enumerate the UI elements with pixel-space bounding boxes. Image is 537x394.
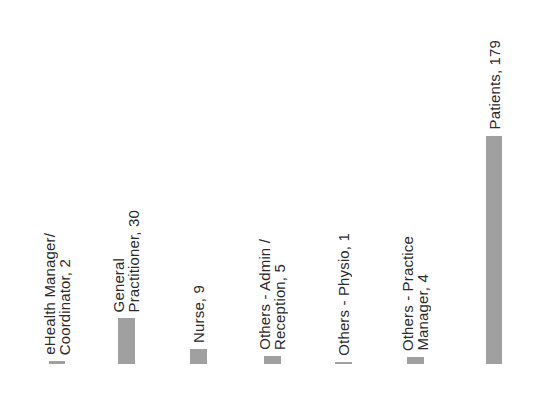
bar-label-others-practice-manager: Others - Practice Manager, 4: [400, 236, 430, 351]
bar-label-line: Reception, 5: [272, 264, 287, 350]
bar-label-others-admin-reception: Others - Admin / Reception, 5: [257, 239, 287, 350]
plot-area: eHealth Manager/ Coordinator, 2 General …: [0, 0, 537, 394]
bar-label-line: Others - Physio, 1: [336, 233, 351, 356]
bar-label-line: Nurse, 9: [191, 285, 206, 343]
bar-label-line: Practitioner, 30: [126, 210, 141, 312]
bar-label-line: General: [111, 258, 126, 312]
bar-label-line: Manager, 4: [415, 274, 430, 351]
bar-others-practice-manager[interactable]: [407, 357, 424, 364]
bar-label-ehealth-manager-coordinator: eHealth Manager/ Coordinator, 2: [42, 233, 72, 355]
bar-label-general-practitioner: General Practitioner, 30: [111, 210, 141, 312]
bar-label-nurse: Nurse, 9: [191, 285, 206, 343]
bar-chart: eHealth Manager/ Coordinator, 2 General …: [0, 0, 537, 394]
bar-label-line: Coordinator, 2: [57, 259, 72, 355]
bar-ehealth-manager-coordinator[interactable]: [49, 361, 65, 364]
bar-others-admin-reception[interactable]: [264, 356, 281, 364]
bar-label-line: Others - Practice: [400, 236, 415, 351]
bar-nurse[interactable]: [190, 349, 207, 364]
bar-label-line: eHealth Manager/: [42, 233, 57, 355]
bar-patients[interactable]: [486, 136, 502, 364]
bar-label-patients: Patients, 179: [487, 40, 502, 130]
bar-general-practitioner[interactable]: [118, 318, 135, 364]
bar-others-physio[interactable]: [335, 362, 352, 364]
bar-label-line: Others - Admin /: [257, 239, 272, 350]
bar-label-line: Patients, 179: [487, 40, 502, 130]
bar-label-others-physio: Others - Physio, 1: [336, 233, 351, 356]
